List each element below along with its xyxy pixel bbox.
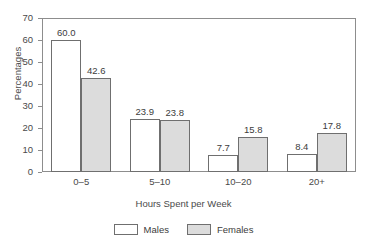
legend-swatch-males	[114, 224, 138, 235]
y-axis-tick-label: 70	[22, 12, 33, 23]
x-axis-category-label: 0–5	[51, 176, 111, 187]
legend: MalesFemales	[0, 224, 367, 235]
legend-item-males[interactable]: Males	[114, 224, 169, 235]
bar-females-0	[81, 78, 111, 172]
bar-males-2	[208, 155, 238, 172]
y-axis-tick-label: 0	[28, 166, 33, 177]
y-axis-title: Percentages	[12, 19, 23, 129]
x-axis-category-label: 10–20	[208, 176, 268, 187]
bar-males-1	[130, 119, 160, 172]
y-axis-tick-mark	[38, 172, 42, 173]
y-axis-tick-label: 20	[22, 122, 33, 133]
bar-value-label: 42.6	[75, 65, 117, 76]
bar-males-0	[51, 40, 81, 172]
bar-value-label: 15.8	[232, 124, 274, 135]
x-axis-category-label: 20+	[287, 176, 347, 187]
bar-females-2	[238, 137, 268, 172]
legend-swatch-females	[187, 224, 211, 235]
x-axis-title: Hours Spent per Week	[0, 198, 367, 209]
bar-females-3	[317, 133, 347, 172]
bar-females-1	[160, 120, 190, 172]
y-axis-tick-label: 60	[22, 34, 33, 45]
legend-label: Females	[217, 224, 253, 235]
legend-item-females[interactable]: Females	[187, 224, 253, 235]
bar-chart: Percentages 010203040506070 60.042.623.9…	[0, 0, 367, 250]
bar-value-label: 23.8	[154, 107, 196, 118]
bars-layer: 60.042.623.923.87.715.88.417.8	[42, 18, 356, 172]
y-axis-tick-label: 40	[22, 78, 33, 89]
y-axis-tick-label: 30	[22, 100, 33, 111]
legend-label: Males	[144, 224, 169, 235]
clipped-header-text	[0, 0, 367, 3]
bar-males-3	[287, 154, 317, 172]
y-axis-tick-label: 50	[22, 56, 33, 67]
bar-value-label: 60.0	[45, 27, 87, 38]
y-axis-tick-label: 10	[22, 144, 33, 155]
x-axis-category-label: 5–10	[130, 176, 190, 187]
bar-value-label: 17.8	[311, 120, 353, 131]
